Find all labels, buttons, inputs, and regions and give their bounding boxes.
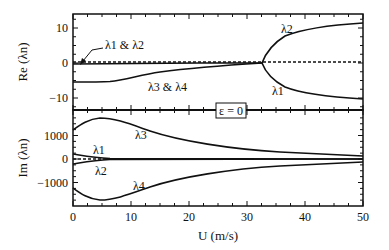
label-lambda1-bottom: λ1: [93, 143, 105, 157]
xtick-30: 30: [241, 210, 253, 224]
eigenvalue-chart: 10 0 −10 1000 0 −1000 0 10 20 30 40 50 R…: [0, 0, 389, 250]
xlabel: U (m/s): [198, 228, 238, 243]
bottom-ytick-1000: 1000: [44, 129, 68, 143]
xtick-0: 0: [70, 210, 76, 224]
curve-lambda2-im: [73, 159, 363, 164]
xtick-10: 10: [125, 210, 137, 224]
xtick-40: 40: [299, 210, 311, 224]
epsilon-label: ε = 0: [219, 104, 243, 118]
label-lambda2-bottom: λ2: [95, 164, 107, 178]
top-panel-curves: [73, 23, 363, 99]
label-lambda34-top: λ3 & λ4: [148, 80, 187, 94]
curve-lambda12-re: [73, 63, 262, 64]
label-lambda3-bottom: λ3: [135, 128, 147, 142]
curve-lambda1-im: [73, 154, 363, 159]
bottom-ylabel: Im (λn): [15, 138, 30, 177]
xtick-20: 20: [183, 210, 195, 224]
label-lambda1-top: λ1: [272, 84, 284, 98]
label-lambda4-bottom: λ4: [133, 179, 145, 193]
top-ylabel: Re (λn): [15, 42, 30, 81]
curve-lambda3-im: [73, 118, 363, 156]
bottom-ytick-neg1000: −1000: [37, 176, 68, 190]
xtick-50: 50: [357, 210, 369, 224]
label-lambda2-top: λ2: [281, 22, 293, 36]
top-ytick-0: 0: [62, 56, 68, 70]
label-lambda12-top: λ1 & λ2: [105, 38, 144, 52]
top-ytick-neg10: −10: [49, 91, 68, 105]
top-ytick-10: 10: [56, 21, 68, 35]
curve-lambda4-im: [73, 162, 363, 200]
curve-lambda2-re: [262, 23, 363, 63]
bottom-panel-curves: [73, 118, 363, 200]
bottom-ytick-0: 0: [62, 152, 68, 166]
